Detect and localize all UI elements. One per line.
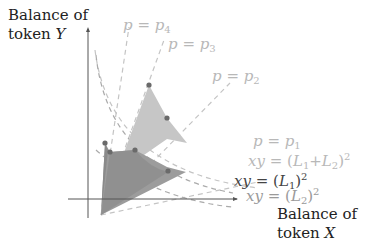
label-text: p xyxy=(200,35,210,53)
curve-label-l1-plus-l2: xy = (L1+L2)2 xyxy=(248,152,350,171)
label-text: 2 xyxy=(313,186,319,197)
label-text: token xyxy=(277,224,324,242)
price-label-p2: p = p2 xyxy=(212,69,260,86)
price-label-p4: p = p4 xyxy=(123,18,171,35)
y-axis-label-line1: Balance of xyxy=(8,6,88,25)
x-axis-arrow xyxy=(233,197,238,201)
y-axis-label-line2: token Y xyxy=(8,25,88,44)
label-text: token xyxy=(8,25,55,43)
label-text: 4 xyxy=(164,24,170,35)
x-axis-label: Balance of token X xyxy=(277,205,357,243)
price-label-p3: p = p3 xyxy=(168,37,216,54)
y-axis-label: Balance of token Y xyxy=(8,6,88,44)
label-text: 1 xyxy=(294,140,300,151)
label-var: X xyxy=(324,224,335,242)
point xyxy=(132,147,137,152)
label-text: = xyxy=(178,35,200,53)
label-text: 2 xyxy=(253,75,259,86)
label-var: Y xyxy=(55,25,65,43)
label-text: = ( xyxy=(263,187,291,205)
point xyxy=(146,82,151,87)
label-text: p xyxy=(285,132,295,150)
label-text: p xyxy=(168,35,178,53)
label-text: p xyxy=(155,16,165,34)
point xyxy=(107,149,112,154)
label-text: p xyxy=(244,67,254,85)
label-text: 2 xyxy=(344,151,350,162)
label-text: p xyxy=(212,67,222,85)
point xyxy=(102,140,107,145)
x-axis-label-line2: token X xyxy=(277,224,357,243)
label-text: = xyxy=(263,132,285,150)
point xyxy=(164,115,169,120)
x-axis-label-line1: Balance of xyxy=(277,205,357,224)
point xyxy=(165,168,170,173)
curve-label-l2: xy = (L2)2 xyxy=(246,187,319,206)
label-text: = ( xyxy=(265,152,293,170)
label-text: L xyxy=(322,152,332,170)
label-text: = xyxy=(133,16,155,34)
label-text: = xyxy=(222,67,244,85)
price-label-p1: p = p1 xyxy=(253,134,301,151)
label-text: xy xyxy=(248,152,265,170)
label-text: p xyxy=(123,16,133,34)
label-text: L xyxy=(291,187,301,205)
label-text: p xyxy=(253,132,263,150)
label-text: xy xyxy=(246,187,263,205)
label-text: L xyxy=(293,152,303,170)
label-text: 2 xyxy=(301,171,307,182)
label-text: + xyxy=(309,152,322,170)
label-text: 3 xyxy=(209,43,215,54)
